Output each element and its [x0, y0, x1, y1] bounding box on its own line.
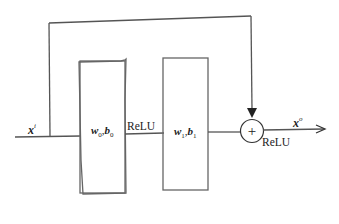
output-label: xo [292, 115, 303, 130]
block-1-label: w1,b1 [174, 125, 197, 140]
relu-label-between: ReLU [127, 120, 156, 132]
skip-arrowhead-icon [247, 108, 257, 118]
relu-label-output: ReLU [262, 136, 291, 148]
sum-symbol: + [248, 123, 256, 139]
input-line [15, 136, 81, 137]
input-label: xi [27, 122, 36, 137]
block-0-label: w0,b0 [91, 124, 114, 139]
residual-block-diagram: + xi w0,b0 ReLU w1,b1 ReLU xo [0, 0, 339, 224]
relu-connector [125, 133, 164, 134]
layer-block-1-rect [163, 58, 208, 190]
